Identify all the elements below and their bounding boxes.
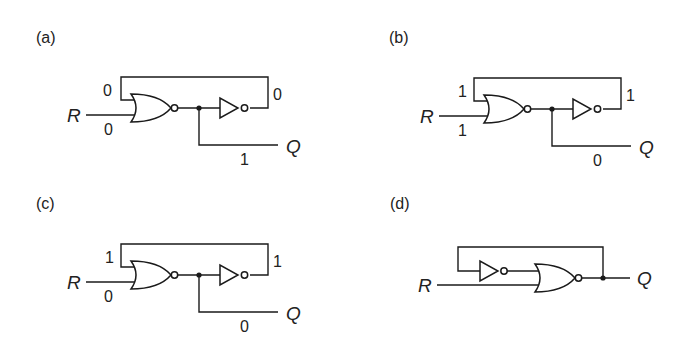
inverter-out-value: 1: [626, 87, 635, 104]
q-out-value: 0: [593, 152, 602, 169]
panel-d: (d) R Q: [390, 195, 652, 296]
q-label: Q: [286, 136, 301, 157]
q-out-value: 0: [240, 318, 249, 335]
q-output-wire: [199, 275, 278, 312]
inverter-output-bubble: [241, 272, 247, 278]
feedback-in-value: 1: [105, 249, 114, 266]
nor-gate: [484, 95, 524, 123]
inverter-out-value: 1: [273, 253, 282, 270]
inverter-out-value: 0: [273, 86, 282, 103]
r-label: R: [418, 275, 432, 296]
nor-gate: [131, 94, 171, 122]
feedback-in-value: 0: [103, 82, 112, 99]
nor-output-bubble: [575, 275, 581, 281]
nor-output-bubble: [524, 106, 530, 112]
q-output-wire: [552, 109, 631, 146]
q-label: Q: [637, 268, 652, 289]
inverter-output-bubble: [594, 106, 600, 112]
nor-gate: [535, 264, 575, 292]
panel-a: (a) R Q 0 0 0 1: [36, 29, 301, 168]
junction-dot: [600, 275, 605, 280]
q-output-wire: [199, 108, 278, 145]
r-in-value: 1: [458, 122, 467, 139]
r-label: R: [420, 106, 434, 127]
q-out-value: 1: [240, 151, 249, 168]
panel-label: (d): [390, 195, 410, 212]
nor-gate: [131, 261, 171, 289]
r-label: R: [67, 272, 81, 293]
inverter-gate: [480, 261, 498, 281]
inverter-output-bubble: [501, 268, 507, 274]
r-label: R: [67, 105, 81, 126]
inverter-gate: [220, 265, 238, 285]
panel-label: (c): [36, 195, 55, 212]
inverter-gate: [573, 99, 591, 119]
panel-c: (c) R Q 1 0 1 0: [36, 195, 301, 335]
nor-output-bubble: [171, 105, 177, 111]
inverter-gate: [220, 98, 238, 118]
feedback-in-value: 1: [458, 83, 467, 100]
nor-output-bubble: [171, 272, 177, 278]
inverter-output-bubble: [241, 105, 247, 111]
q-label: Q: [286, 303, 301, 324]
r-in-value: 0: [104, 288, 113, 305]
latch-diagram-figure: (a) R Q 0 0 0 1 (b): [0, 0, 693, 357]
r-in-value: 0: [104, 121, 113, 138]
panel-label: (b): [389, 29, 409, 46]
q-label: Q: [639, 137, 654, 158]
panel-b: (b) R Q 1 1 1 0: [389, 29, 654, 169]
panel-label: (a): [36, 29, 56, 46]
